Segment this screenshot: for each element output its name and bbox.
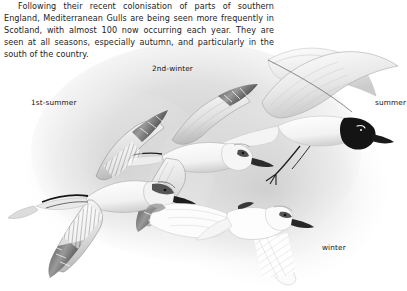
caption-summer: summer xyxy=(375,99,406,107)
intro-text: Following their recent colonisation of p… xyxy=(4,1,274,59)
caption-first-summer: 1st-summer xyxy=(31,99,77,107)
caption-second-winter: 2nd-winter xyxy=(152,65,193,73)
intro-paragraph: Following their recent colonisation of p… xyxy=(4,1,274,61)
gull-plate xyxy=(0,40,407,291)
caption-winter: winter xyxy=(322,244,346,252)
illustration-page: Following their recent colonisation of p… xyxy=(0,0,407,291)
gull-plate-artwork xyxy=(0,40,407,291)
